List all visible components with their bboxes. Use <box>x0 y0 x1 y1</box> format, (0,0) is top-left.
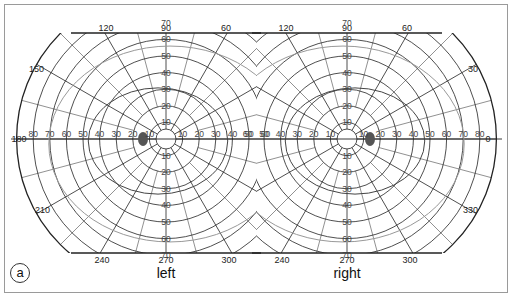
svg-text:0: 0 <box>485 134 490 144</box>
svg-text:30: 30 <box>111 129 121 139</box>
svg-text:330: 330 <box>463 205 478 215</box>
svg-text:50: 50 <box>342 51 352 61</box>
svg-text:30: 30 <box>468 64 478 74</box>
svg-text:300: 300 <box>402 255 417 265</box>
svg-text:120: 120 <box>278 23 293 33</box>
svg-text:150: 150 <box>29 64 44 74</box>
svg-text:10: 10 <box>161 117 171 127</box>
svg-text:10: 10 <box>178 129 188 139</box>
svg-text:50: 50 <box>342 217 352 227</box>
svg-text:10: 10 <box>342 151 352 161</box>
svg-text:180: 180 <box>11 134 26 144</box>
svg-text:60: 60 <box>62 129 72 139</box>
svg-text:70: 70 <box>342 18 352 28</box>
svg-text:80: 80 <box>475 129 485 139</box>
svg-text:80: 80 <box>28 129 38 139</box>
svg-text:30: 30 <box>161 84 171 94</box>
svg-text:40: 40 <box>161 68 171 78</box>
svg-text:10: 10 <box>359 129 369 139</box>
svg-text:20: 20 <box>128 129 138 139</box>
svg-text:240: 240 <box>94 255 109 265</box>
svg-text:70: 70 <box>45 129 55 139</box>
svg-text:30: 30 <box>342 184 352 194</box>
svg-text:40: 40 <box>342 200 352 210</box>
svg-text:30: 30 <box>211 129 221 139</box>
svg-text:40: 40 <box>228 129 238 139</box>
svg-text:10: 10 <box>161 151 171 161</box>
svg-text:10: 10 <box>145 129 155 139</box>
svg-text:300: 300 <box>221 255 236 265</box>
left-eye-label: left <box>157 265 176 281</box>
panel-label: a <box>10 263 30 283</box>
svg-text:50: 50 <box>78 129 88 139</box>
svg-text:120: 120 <box>98 23 113 33</box>
svg-text:50: 50 <box>425 129 435 139</box>
svg-text:60: 60 <box>161 234 171 244</box>
svg-text:60: 60 <box>161 34 171 44</box>
svg-text:30: 30 <box>392 129 402 139</box>
svg-text:70: 70 <box>161 250 171 260</box>
svg-text:70: 70 <box>161 18 171 28</box>
svg-text:20: 20 <box>342 167 352 177</box>
svg-text:60: 60 <box>243 129 253 139</box>
svg-text:50: 50 <box>161 51 171 61</box>
svg-text:20: 20 <box>375 129 385 139</box>
svg-text:30: 30 <box>292 129 302 139</box>
svg-text:20: 20 <box>342 101 352 111</box>
svg-text:60: 60 <box>342 34 352 44</box>
right-eye-label: right <box>333 265 360 281</box>
svg-text:60: 60 <box>221 23 231 33</box>
svg-text:20: 20 <box>309 129 319 139</box>
svg-text:40: 40 <box>276 129 286 139</box>
svg-text:20: 20 <box>194 129 204 139</box>
svg-text:10: 10 <box>342 117 352 127</box>
svg-text:50: 50 <box>259 129 269 139</box>
svg-text:30: 30 <box>161 184 171 194</box>
svg-text:10: 10 <box>326 129 336 139</box>
svg-text:70: 70 <box>342 250 352 260</box>
svg-text:40: 40 <box>342 68 352 78</box>
svg-text:40: 40 <box>95 129 105 139</box>
svg-text:60: 60 <box>402 23 412 33</box>
svg-text:50: 50 <box>161 217 171 227</box>
svg-text:60: 60 <box>442 129 452 139</box>
svg-text:210: 210 <box>35 205 50 215</box>
svg-text:30: 30 <box>342 84 352 94</box>
svg-text:60: 60 <box>342 234 352 244</box>
svg-text:240: 240 <box>274 255 289 265</box>
svg-text:40: 40 <box>161 200 171 210</box>
svg-text:20: 20 <box>161 167 171 177</box>
svg-text:40: 40 <box>409 129 419 139</box>
svg-text:20: 20 <box>161 101 171 111</box>
visual-field-chart: 1209060150180210240270300120906030033024… <box>0 0 511 298</box>
svg-text:70: 70 <box>458 129 468 139</box>
